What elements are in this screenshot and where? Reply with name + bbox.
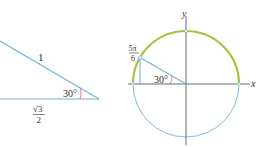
angle-arc-icon bbox=[170, 76, 172, 84]
triangle-angle-label: 30° bbox=[63, 88, 77, 99]
y-axis-label: y bbox=[181, 8, 187, 19]
reference-triangle: 1 30° √3 2 bbox=[0, 41, 99, 125]
triangle-hypotenuse bbox=[0, 41, 99, 99]
point-label-numerator: 5π bbox=[129, 44, 137, 53]
hypotenuse-label: 1 bbox=[38, 51, 44, 63]
left-intercept-marker bbox=[132, 83, 135, 86]
diagram-canvas: 1 30° √3 2 y x 5π 6 30° bbox=[0, 0, 256, 147]
point-marker bbox=[138, 56, 141, 59]
point-label-denominator: 6 bbox=[131, 54, 135, 63]
base-label-denominator: 2 bbox=[37, 115, 42, 125]
circle-angle-label: 30° bbox=[154, 74, 168, 85]
x-axis-label: x bbox=[250, 78, 256, 89]
angle-arc-icon bbox=[80, 88, 81, 99]
base-label-numerator: √3 bbox=[33, 104, 43, 114]
unit-circle-figure: y x 5π 6 30° bbox=[128, 8, 256, 145]
top-intercept-marker bbox=[184, 29, 187, 32]
right-intercept-marker bbox=[238, 83, 241, 86]
